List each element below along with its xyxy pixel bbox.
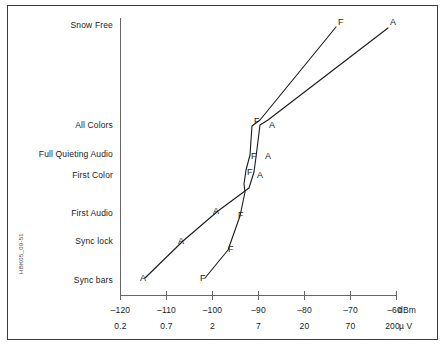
marker-a-full-quieting-audio: A (265, 152, 271, 161)
y-label-first-color: First Color (25, 170, 113, 180)
x-axis-unit-microvolt: µ V (399, 321, 412, 331)
marker-a-sync-lock: A (178, 237, 184, 246)
x-tick-uv-3: 7 (238, 321, 279, 331)
y-label-first-audio: First Audio (25, 208, 113, 218)
marker-a-all-colors: A (269, 121, 275, 130)
x-tick-dbm-3: –90 (238, 305, 279, 315)
marker-a-first-audio: A (213, 207, 219, 216)
marker-f-first-color: F (247, 168, 253, 177)
marker-f-sync-lock: F (228, 245, 234, 254)
marker-f-sync-bars: F (200, 274, 206, 283)
marker-f-full-quieting-audio: F (251, 152, 257, 161)
y-label-sync-lock: Sync lock (25, 236, 113, 246)
x-tick-dbm-0: –120 (100, 305, 141, 315)
x-tick-uv-5: 70 (330, 321, 371, 331)
x-tick-uv-4: 20 (284, 321, 325, 331)
marker-a-snow-free: A (390, 18, 396, 27)
figure-container: Snow Free All Colors Full Quieting Audio… (0, 0, 445, 346)
x-tick-uv-2: 2 (192, 321, 233, 331)
y-label-sync-bars: Sync bars (25, 275, 113, 285)
marker-f-all-colors: F (254, 117, 260, 126)
x-tick-uv-0: 0.2 (100, 321, 141, 331)
x-axis-unit-dbm: dBm (398, 305, 416, 315)
marker-a-sync-bars: A (140, 274, 146, 283)
y-label-all-colors: All Colors (25, 120, 113, 130)
marker-f-first-audio: F (238, 211, 244, 220)
x-tick-uv-1: 0.7 (146, 321, 187, 331)
figure-id-label: HBK05_09-51 (18, 233, 24, 274)
marker-f-snow-free: F (338, 18, 344, 27)
y-label-snow-free: Snow Free (25, 20, 113, 30)
x-tick-dbm-1: –110 (146, 305, 187, 315)
x-tick-dbm-2: –100 (192, 305, 233, 315)
marker-a-first-color: A (257, 171, 263, 180)
x-tick-dbm-5: –70 (330, 305, 371, 315)
x-tick-dbm-4: –80 (284, 305, 325, 315)
y-label-full-quieting-audio: Full Quieting Audio (15, 149, 113, 159)
